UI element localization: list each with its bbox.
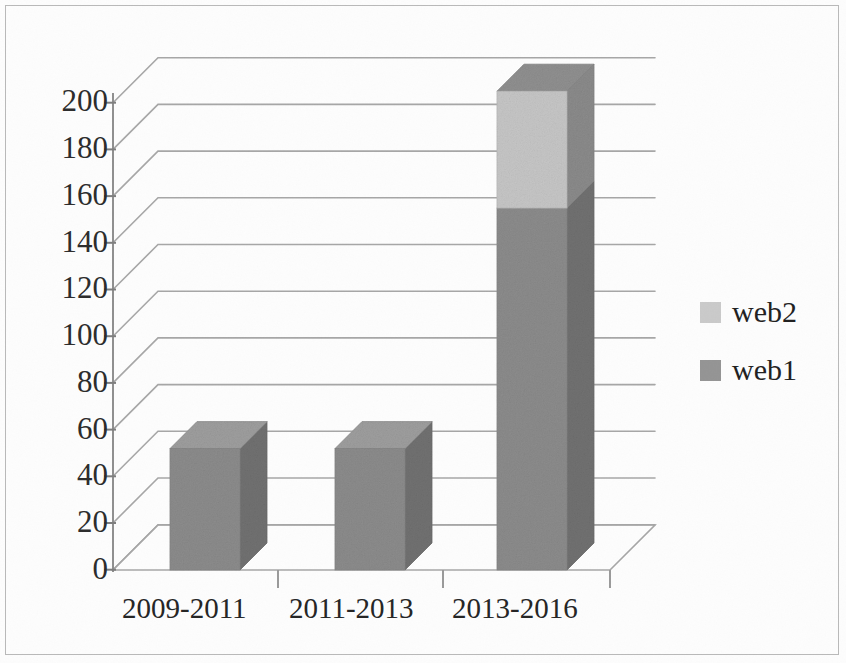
legend-item-web1[interactable]: web1 (700, 341, 835, 399)
legend-swatch-web1 (700, 360, 721, 381)
legend-label-web2: web2 (732, 297, 797, 327)
legend-swatch-web2 (700, 302, 721, 323)
x-tick-2009-2011: 2009-2011 (122, 594, 247, 623)
chart-legend: web2 web1 (700, 283, 835, 399)
legend-label-web1: web1 (732, 355, 797, 385)
x-tick-2013-2016: 2013-2016 (452, 594, 578, 623)
legend-item-web2[interactable]: web2 (700, 283, 835, 341)
chart-container: 200 180 160 140 120 100 80 60 40 20 0 20… (0, 0, 846, 663)
x-tick-2011-2013: 2011-2013 (289, 594, 414, 623)
